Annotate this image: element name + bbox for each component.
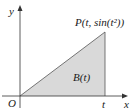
region-b-label: B(t)	[73, 72, 90, 83]
y-axis-arrow-icon	[18, 5, 23, 11]
y-axis-label: y	[9, 6, 14, 17]
point-p-label: P(t, sin(t²))	[75, 17, 124, 28]
t-tick-label: t	[102, 99, 105, 110]
origin-label: O	[8, 98, 16, 109]
x-axis-label: x	[124, 99, 129, 110]
